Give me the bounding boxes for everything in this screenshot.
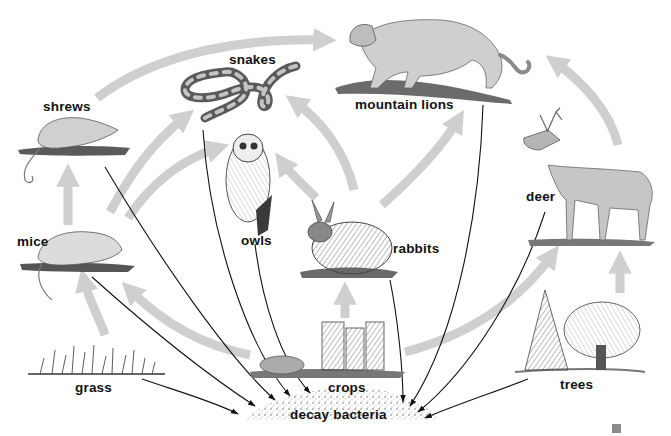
food-web-canvas (0, 0, 671, 436)
arrow-rabbits-to-decay (390, 280, 403, 402)
arrow-crops-to-deer (405, 255, 552, 352)
mountain-lion-illustration (335, 20, 529, 104)
grass-illustration (28, 345, 165, 374)
arrow-rabbits-to-snakes (295, 102, 354, 190)
corner-mark (612, 424, 621, 433)
arrow-rabbits-to-owls (282, 162, 316, 198)
shrew-illustration (18, 118, 130, 183)
arrow-trees-to-decay (425, 379, 528, 418)
label-grass: grass (75, 380, 112, 395)
trees-illustration (515, 290, 645, 372)
deer-illustration (524, 108, 655, 246)
snake-illustration (185, 66, 296, 118)
arrow-mice-to-decay (92, 277, 255, 406)
label-rabbits: rabbits (393, 241, 439, 256)
label-snakes: snakes (229, 52, 276, 67)
label-mountain-lions: mountain lions (355, 97, 454, 112)
arrow-grass-to-mice (84, 280, 105, 335)
label-deer: deer (526, 189, 555, 204)
label-mice: mice (17, 234, 49, 249)
label-trees: trees (560, 377, 593, 392)
owl-illustration (226, 134, 272, 236)
arrow-crops-to-mice (130, 290, 250, 355)
crops-illustration (250, 322, 405, 378)
food-web-diagram: shrews snakes mountain lions owls mice r… (0, 0, 671, 436)
label-crops: crops (328, 380, 366, 395)
label-owls: owls (241, 233, 272, 248)
arrow-deer-to-mountain-lions (555, 62, 618, 145)
label-shrews: shrews (43, 99, 91, 114)
rabbit-illustration (300, 200, 398, 278)
label-decay-bacteria: decay bacteria (290, 407, 387, 422)
arrow-rabbits-to-mountain-lions (382, 120, 458, 205)
